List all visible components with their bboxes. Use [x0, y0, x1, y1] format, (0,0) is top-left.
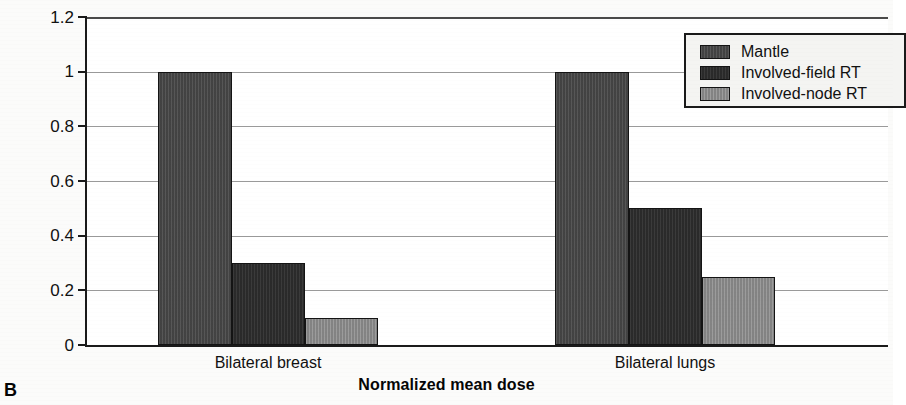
bar-breast-mantle: [158, 72, 232, 345]
y-tick-label-0-4: 0.4: [50, 227, 74, 244]
y-tick-label-0: 0: [65, 337, 74, 354]
legend-swatch-involved-node-rt-icon: [700, 87, 730, 101]
legend-label-involved-field-rt: Involved-field RT: [741, 65, 861, 81]
y-tick-label-1-2: 1.2: [50, 9, 74, 26]
bar-lungs-involved-field: [629, 208, 702, 345]
y-tick-label-0-8: 0.8: [50, 118, 74, 135]
legend-swatch-involved-field-rt-icon: [700, 66, 730, 80]
y-tick-mark-1-0: [78, 71, 86, 73]
bar-lungs-mantle: [555, 72, 629, 345]
y-tick-mark-0-2: [78, 289, 86, 291]
gridline-1-2: [87, 17, 888, 19]
y-axis-tick-labels: 1.2 1 0.8 0.6 0.4 0.2 0: [0, 0, 74, 405]
y-tick-mark-0: [78, 344, 86, 346]
bar-breast-involved-field: [232, 263, 305, 345]
y-tick-mark-1-2: [78, 16, 86, 18]
x-category-label-bilateral-lungs: Bilateral lungs: [555, 355, 775, 371]
panel-label: B: [4, 381, 17, 399]
legend-label-involved-node-rt: Involved-node RT: [741, 86, 867, 102]
y-tick-label-1-0: 1: [65, 63, 74, 80]
x-axis-title: Normalized mean dose: [0, 377, 893, 393]
legend-item-mantle: Mantle: [700, 41, 904, 62]
legend-item-involved-node-rt: Involved-node RT: [700, 83, 904, 104]
chart-legend: Mantle Involved-field RT Involved-node R…: [684, 33, 906, 108]
y-tick-mark-0-6: [78, 180, 86, 182]
bar-breast-involved-node: [305, 318, 378, 345]
y-tick-label-0-6: 0.6: [50, 173, 74, 190]
y-tick-mark-0-8: [78, 125, 86, 127]
legend-label-mantle: Mantle: [741, 44, 789, 60]
x-category-label-bilateral-breast: Bilateral breast: [158, 355, 378, 371]
x-axis-line: [85, 345, 888, 347]
legend-swatch-mantle-icon: [700, 45, 730, 59]
legend-item-involved-field-rt: Involved-field RT: [700, 62, 904, 83]
y-tick-label-0-2: 0.2: [50, 282, 74, 299]
bar-lungs-involved-node: [702, 277, 775, 345]
y-tick-mark-0-4: [78, 235, 86, 237]
